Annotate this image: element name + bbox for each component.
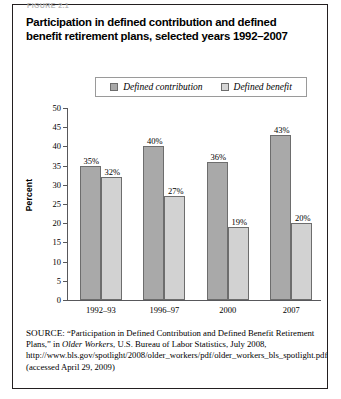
bar-value-label: 27% — [159, 186, 193, 196]
y-axis-tick — [63, 300, 67, 301]
y-axis-tick — [63, 185, 67, 186]
y-axis-tick — [63, 108, 67, 109]
y-axis-tick-label: 15 — [21, 237, 61, 247]
bar-defined-contribution: 40% — [143, 146, 164, 300]
bar-defined-contribution: 35% — [80, 166, 101, 300]
bar-value-label: 43% — [265, 125, 299, 135]
y-axis-tick-label: 5 — [21, 276, 61, 286]
bar-defined-benefit: 32% — [101, 177, 122, 300]
y-axis-tick-label: 20 — [21, 218, 61, 228]
y-axis-tick-label: 25 — [21, 199, 61, 209]
y-axis-tick-label: 40 — [21, 141, 61, 151]
y-axis-title: Percent — [24, 165, 34, 225]
bar-group: 40%27% — [143, 108, 185, 300]
bar-value-label: 20% — [286, 213, 320, 223]
y-axis-tick — [63, 262, 67, 263]
bar-value-label: 19% — [222, 217, 256, 227]
y-axis-tick-label: 10 — [21, 257, 61, 267]
bar-value-label: 40% — [138, 136, 172, 146]
x-axis-category-label: 2007 — [246, 305, 336, 315]
bar-defined-contribution: 36% — [207, 162, 228, 300]
source-prefix: SOURCE: — [26, 328, 65, 338]
source-publication-title: Older Workers — [62, 339, 113, 349]
y-axis-tick — [63, 281, 67, 282]
y-axis-tick — [63, 242, 67, 243]
y-axis-tick — [63, 146, 67, 147]
y-axis-tick-label: 30 — [21, 180, 61, 190]
bar-value-label: 35% — [74, 156, 108, 166]
y-axis-line — [67, 108, 68, 300]
y-axis-tick-label: 45 — [21, 122, 61, 132]
bar-defined-benefit: 27% — [164, 196, 185, 300]
source-note: SOURCE: “Participation in Defined Contri… — [26, 328, 318, 373]
plot-area: 05101520253035404550 35%32%40%27%36%19%4… — [67, 108, 321, 300]
y-axis-tick-label: 0 — [21, 295, 61, 305]
y-axis-tick-label: 35 — [21, 161, 61, 171]
bar-defined-benefit: 19% — [228, 227, 249, 300]
y-axis-tick — [63, 223, 67, 224]
y-axis-tick — [63, 204, 67, 205]
x-axis-line — [67, 300, 321, 301]
bar-group: 43%20% — [270, 108, 312, 300]
y-axis-tick — [63, 127, 67, 128]
bar-group: 35%32% — [80, 108, 122, 300]
y-axis-tick — [63, 166, 67, 167]
bar-value-label: 32% — [95, 167, 129, 177]
bar-defined-benefit: 20% — [291, 223, 312, 300]
y-axis-tick-label: 50 — [21, 103, 61, 113]
figure-frame: FIGURE 2.1 Participation in defined cont… — [12, 4, 328, 389]
bar-value-label: 36% — [201, 152, 235, 162]
bar-group: 36%19% — [207, 108, 249, 300]
